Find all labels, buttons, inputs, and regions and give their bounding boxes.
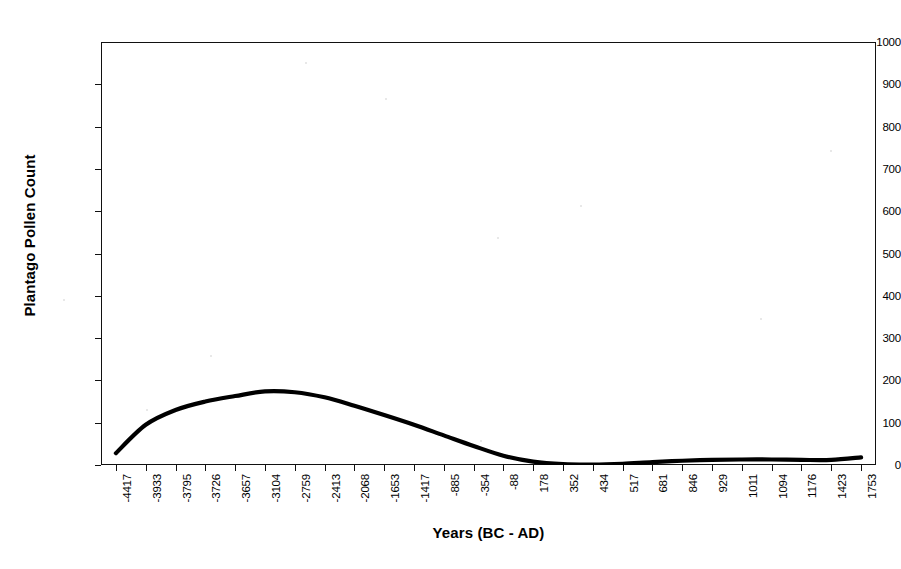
y-axis-title: Plantago Pollen Count [14, 0, 44, 470]
scan-speck [480, 440, 482, 442]
x-tick-mark [652, 465, 653, 471]
series-line-plantago [101, 42, 876, 465]
x-tick-label: 352 [568, 474, 580, 493]
x-tick-label: -2068 [359, 474, 371, 502]
x-tick-label: -3726 [210, 474, 222, 502]
x-tick-mark [801, 465, 802, 471]
x-tick-label: -1653 [389, 474, 401, 502]
pollen-count-chart: Plantago Pollen Count 100090080070060050… [0, 0, 901, 569]
x-tick-label: -1417 [419, 474, 431, 502]
y-axis-title-label: Plantago Pollen Count [21, 154, 38, 316]
x-tick-mark [503, 465, 504, 471]
y-tick-mark [95, 465, 101, 466]
scan-speck [210, 355, 212, 357]
x-tick-label: -88 [508, 474, 520, 490]
x-tick-mark [354, 465, 355, 471]
x-tick-mark [772, 465, 773, 471]
x-tick-label: 681 [657, 474, 669, 493]
scan-speck [760, 318, 762, 320]
x-tick-label: -3933 [151, 474, 163, 502]
x-tick-label: 1753 [866, 474, 878, 499]
x-tick-mark [533, 465, 534, 471]
x-tick-mark [831, 465, 832, 471]
x-tick-mark [474, 465, 475, 471]
x-tick-mark [116, 465, 117, 471]
x-tick-mark [295, 465, 296, 471]
x-tick-label: 178 [538, 474, 550, 493]
x-tick-label: 434 [598, 474, 610, 493]
series-path-plantago [116, 391, 861, 464]
scan-speck [146, 409, 148, 411]
x-tick-mark [682, 465, 683, 471]
x-tick-mark [146, 465, 147, 471]
x-tick-label: -2413 [330, 474, 342, 502]
x-tick-mark [176, 465, 177, 471]
scan-speck [497, 237, 499, 239]
x-axis-title: Years (BC - AD) [101, 524, 876, 541]
x-tick-mark [235, 465, 236, 471]
x-tick-mark [563, 465, 564, 471]
x-tick-mark [325, 465, 326, 471]
x-tick-label: 517 [628, 474, 640, 493]
x-tick-mark [861, 465, 862, 471]
x-tick-mark [712, 465, 713, 471]
x-tick-label: -3657 [240, 474, 252, 502]
scan-speck [305, 62, 307, 64]
x-tick-label: 1094 [777, 474, 789, 499]
x-tick-label: 846 [687, 474, 699, 493]
x-tick-mark [205, 465, 206, 471]
x-tick-label: 1011 [747, 474, 759, 498]
scan-speck [580, 205, 582, 207]
x-tick-label: 1423 [836, 474, 848, 499]
x-tick-mark [593, 465, 594, 471]
x-tick-label: -885 [449, 474, 461, 496]
x-tick-mark [623, 465, 624, 471]
scan-speck [830, 150, 832, 152]
x-tick-mark [265, 465, 266, 471]
x-tick-label: -4417 [121, 474, 133, 502]
x-tick-label: -354 [479, 474, 491, 496]
x-tick-label: -3104 [270, 474, 282, 502]
scan-speck [63, 299, 65, 301]
x-tick-mark [384, 465, 385, 471]
x-tick-label: 929 [717, 474, 729, 493]
x-tick-label: -3795 [181, 474, 193, 502]
x-tick-mark [742, 465, 743, 471]
x-tick-mark [414, 465, 415, 471]
x-tick-label: -2759 [300, 474, 312, 502]
x-tick-label: 1176 [806, 474, 818, 498]
x-tick-mark [444, 465, 445, 471]
scan-speck [385, 98, 387, 100]
